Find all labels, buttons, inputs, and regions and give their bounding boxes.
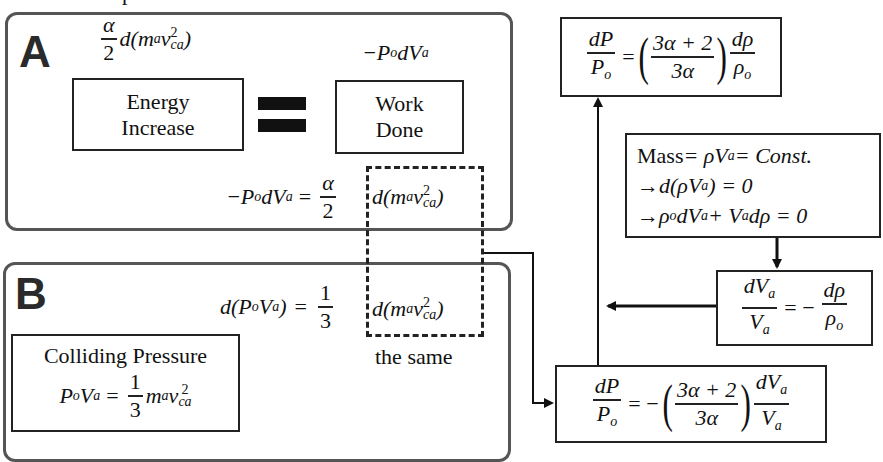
panel-a-letter: A xyxy=(19,30,51,74)
energy-increase-line1: Energy xyxy=(126,89,189,115)
work-done-line2: Done xyxy=(376,117,424,143)
equals-sign-top-bar xyxy=(258,97,306,110)
colliding-pressure-title: Colliding Pressure xyxy=(44,343,207,369)
mass-line-1: Mass = ρVa = Const. xyxy=(637,141,812,171)
colliding-pressure-equation: PoVa = 13 mav2ca xyxy=(59,369,191,423)
work-expression: −PodVa xyxy=(362,40,429,66)
panel-b-equation: d(PoVa) = 13 xyxy=(220,280,336,334)
energy-expression: α2 d(mav2ca) xyxy=(98,12,191,66)
colliding-pressure-box: Colliding Pressure PoVa = 13 mav2ca xyxy=(11,334,240,432)
pressure-density-box: dPPo = ( 3α + 23α ) dρρo xyxy=(560,17,782,97)
volume-density-box: dVaVa = − dρρo xyxy=(716,270,873,346)
mass-conservation-box: Mass = ρVa = Const. → d(ρVa) = 0 → ρodVa… xyxy=(625,133,881,238)
panel-b-letter: B xyxy=(15,272,47,316)
shared-term-dashed-box xyxy=(366,166,484,337)
panel-a-equation: −PodVa = α2 xyxy=(226,170,339,224)
energy-increase-line2: Increase xyxy=(121,115,194,141)
mass-line-3: → ρodVa + Vadρ = 0 xyxy=(637,201,807,231)
work-done-box: Work Done xyxy=(335,80,464,154)
equals-sign-bottom-bar xyxy=(258,119,306,132)
energy-increase-box: Energy Increase xyxy=(72,78,244,151)
the-same-label: the same xyxy=(375,344,453,370)
work-done-line1: Work xyxy=(375,91,423,117)
mass-line-2: → d(ρVa) = 0 xyxy=(637,171,753,201)
pressure-volume-box: dPPo = − ( 3α + 23α ) dVaVa xyxy=(555,365,827,443)
